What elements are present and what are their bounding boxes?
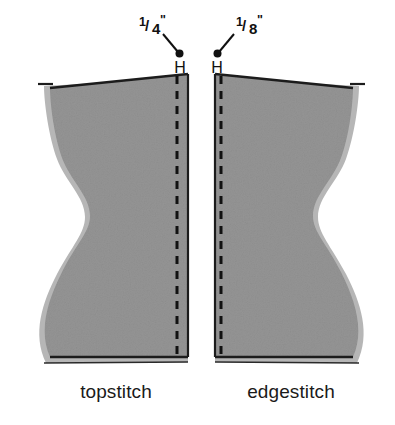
leader-line-eighth-inch	[219, 34, 234, 52]
caption-edgestitch: edgestitch	[247, 381, 335, 402]
fabric-bottom-shadow-edge-edgestitch	[215, 362, 359, 363]
fabric-body-edgestitch	[215, 74, 358, 357]
panel-edgestitch: edgestitch	[215, 74, 365, 402]
dim-unit-eighth: "	[257, 13, 263, 27]
leader-dot-eighth-inch	[214, 50, 222, 58]
diagram-canvas: topstitch edgestitch 1 / 4 " H 1 / 8 " H	[0, 0, 395, 425]
stitch-diagram-svg: topstitch edgestitch 1 / 4 " H 1 / 8 " H	[0, 0, 395, 425]
panel-topstitch: topstitch	[38, 74, 188, 402]
fabric-body-topstitch	[45, 74, 188, 357]
hmark-topstitch: H	[174, 59, 186, 76]
caption-topstitch: topstitch	[80, 381, 152, 402]
annotation-quarter-inch: 1 / 4 " H	[139, 13, 186, 76]
fabric-bottom-shadow-edge-topstitch	[44, 362, 188, 363]
leader-line-quarter-inch	[163, 34, 178, 52]
dim-slash-quarter: /	[145, 17, 150, 34]
dim-unit-quarter: "	[160, 13, 166, 27]
leader-dot-quarter-inch	[176, 50, 184, 58]
hmark-edgestitch: H	[211, 59, 223, 76]
annotation-eighth-inch: 1 / 8 " H	[211, 13, 263, 76]
dim-slash-eighth: /	[242, 17, 247, 34]
